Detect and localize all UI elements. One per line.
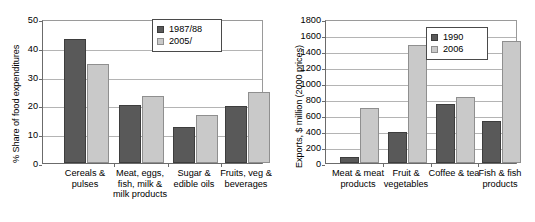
x-axis-category-label: Meat, eggs, fish, milk & milk products [111, 168, 169, 200]
y-axis-tick-label: 800 [306, 96, 321, 105]
plot-area [325, 20, 517, 164]
bar-right-1-0 [388, 132, 407, 163]
legend-item: 2005/ [157, 36, 215, 47]
legend-item: 2006 [431, 44, 481, 55]
bar-right-3-1 [502, 41, 521, 163]
chart-pair-figure: % Share of food expenditures50403020100C… [0, 0, 535, 222]
bar-left-2-0 [173, 127, 195, 163]
y-axis-tick-label: 1200 [301, 64, 321, 73]
y-axis-title: % Share of food expenditures [11, 45, 21, 163]
y-axis-tick-label: 40 [28, 44, 38, 53]
bar-left-1-0 [119, 105, 141, 163]
y-axis-tick-label: 1800 [301, 16, 321, 25]
y-axis-tick-label: 50 [28, 16, 38, 25]
y-axis-tick-label: 20 [28, 102, 38, 111]
bar-right-3-0 [482, 121, 501, 163]
x-axis-tick-mark [431, 163, 432, 167]
x-axis-tick-mark [168, 163, 169, 167]
legend-label: 1990 [443, 33, 463, 42]
x-axis-category-label: Sugar & edible oils [165, 168, 223, 189]
y-axis-tick-mark [322, 117, 325, 118]
bar-left-0-1 [87, 64, 109, 163]
bar-right-1-1 [408, 45, 427, 163]
y-axis-tick-mark [322, 85, 325, 86]
y-axis-tick-label: 600 [306, 112, 321, 121]
bar-left-2-1 [196, 115, 218, 163]
legend-label: 1987/88 [169, 25, 202, 34]
legend-swatch-icon [157, 38, 164, 45]
x-axis-category-label: Cereals & pulses [56, 168, 114, 189]
y-axis-tick-mark [39, 50, 42, 51]
legend-label: 2005/ [169, 37, 192, 46]
y-axis-tick-label: 1400 [301, 48, 321, 57]
bar-left-3-0 [225, 106, 247, 163]
x-axis-tick-mark [221, 163, 222, 167]
bar-right-0-0 [340, 157, 359, 163]
x-axis-tick-mark [478, 163, 479, 167]
bar-right-2-0 [436, 104, 455, 163]
bar-right-2-1 [456, 97, 475, 163]
y-axis-tick-mark [322, 21, 325, 22]
y-axis-tick-mark [322, 133, 325, 134]
y-axis-tick-mark [39, 107, 42, 108]
legend-swatch-icon [431, 46, 438, 53]
chart-legend: 19902006 [426, 27, 488, 60]
y-axis-tick-label: 30 [28, 73, 38, 82]
legend-item: 1987/88 [157, 24, 215, 35]
chart-legend: 1987/882005/ [152, 19, 222, 52]
y-axis-tick-mark [322, 69, 325, 70]
y-axis-tick-mark [322, 53, 325, 54]
y-axis-tick-label: 1600 [301, 32, 321, 41]
chart-food-expenditure-shares: % Share of food expenditures50403020100C… [0, 0, 268, 222]
y-axis-tick-mark [39, 79, 42, 80]
y-axis-tick-label: 200 [306, 144, 321, 153]
y-axis-tick-mark [39, 21, 42, 22]
legend-item: 1990 [431, 32, 481, 43]
legend-label: 2006 [443, 45, 463, 54]
y-axis-tick-mark [322, 165, 325, 166]
chart-agricultural-exports: Exports, $ million (2000 prices)18001600… [267, 0, 535, 222]
legend-swatch-icon [157, 26, 164, 33]
y-axis-tick-mark [322, 101, 325, 102]
y-axis-tick-mark [39, 136, 42, 137]
y-axis-tick-label: 0 [33, 160, 38, 169]
y-axis-tick-mark [322, 37, 325, 38]
x-axis-tick-mark [114, 163, 115, 167]
y-axis-tick-label: 0 [316, 160, 321, 169]
y-axis-tick-mark [39, 165, 42, 166]
bar-right-0-1 [360, 108, 379, 163]
bar-left-0-0 [64, 39, 86, 163]
y-axis-tick-label: 10 [28, 131, 38, 140]
x-axis-tick-mark [383, 163, 384, 167]
bar-left-1-1 [142, 96, 164, 163]
x-axis-category-label: Fish & fish products [472, 168, 528, 189]
y-axis-tick-label: 1000 [301, 80, 321, 89]
y-axis-tick-mark [322, 149, 325, 150]
legend-swatch-icon [431, 34, 438, 41]
y-axis-tick-label: 400 [306, 128, 321, 137]
